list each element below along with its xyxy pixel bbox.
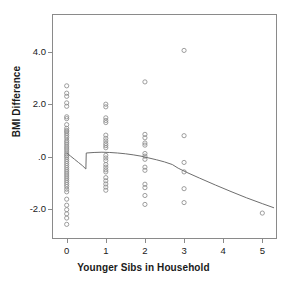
data-point	[65, 190, 69, 194]
x-tick-label: 5	[250, 245, 274, 256]
data-point	[182, 200, 186, 204]
data-point-group	[65, 48, 265, 226]
y-tick-label: 2.0	[6, 98, 46, 109]
y-tick-label: -2.0	[6, 203, 46, 214]
plot-frame	[52, 14, 277, 239]
data-point	[65, 212, 69, 216]
data-point	[182, 134, 186, 138]
x-axis-title: Younger Sibs in Household	[0, 262, 287, 273]
plot-canvas	[53, 15, 276, 238]
data-point	[182, 48, 186, 52]
data-point	[182, 187, 186, 191]
x-tick-mark	[67, 239, 68, 243]
data-point	[182, 160, 186, 164]
x-tick-mark	[145, 239, 146, 243]
y-tick-label: .0	[6, 151, 46, 162]
scatterplot-figure: BMI Difference 4.02.0.0-2.0 012345 Young…	[0, 0, 287, 286]
x-tick-label: 1	[94, 245, 118, 256]
x-tick-label: 2	[133, 245, 157, 256]
data-point	[65, 197, 69, 201]
x-tick-mark	[223, 239, 224, 243]
data-point	[143, 193, 147, 197]
data-point	[143, 80, 147, 84]
plot-area	[53, 15, 276, 238]
x-tick-mark	[184, 239, 185, 243]
data-point	[65, 216, 69, 220]
lowess-fit-line	[67, 152, 274, 208]
data-point	[65, 203, 69, 207]
y-tick-label: 4.0	[6, 46, 46, 57]
x-tick-mark	[106, 239, 107, 243]
x-tick-mark	[262, 239, 263, 243]
data-point	[260, 211, 264, 215]
data-point	[65, 208, 69, 212]
data-point	[104, 105, 108, 109]
x-tick-label: 4	[211, 245, 235, 256]
x-tick-label: 0	[55, 245, 79, 256]
data-point	[65, 84, 69, 88]
data-point	[143, 202, 147, 206]
x-tick-label: 3	[172, 245, 196, 256]
data-point	[65, 222, 69, 226]
